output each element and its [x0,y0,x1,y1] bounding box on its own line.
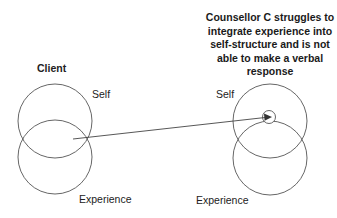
caption-line: Counsellor C struggles to [203,11,337,25]
client-self-label: Self [92,88,110,100]
counsellor-experience-label: Experience [196,194,249,206]
client-experience-circle [18,120,92,194]
diagram-canvas: Client Self Experience Counsellor C stru… [0,0,337,218]
caption-line: able to make a verbal [203,52,337,66]
caption-line: integrate experience into [203,25,337,39]
client-title: Client [37,62,66,74]
counsellor-self-label: Self [216,88,234,100]
caption-line: self-structure and is not [203,38,337,52]
client-experience-label: Experience [79,193,132,205]
caption-line: response [203,65,337,79]
client-self-circle [18,84,92,158]
counsellor-caption: Counsellor C struggles to integrate expe… [203,11,337,79]
